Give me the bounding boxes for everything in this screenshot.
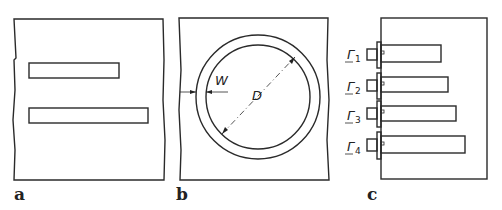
feed-port-3: Γ 3 [345, 101, 456, 127]
port-index-3: 3 [355, 115, 361, 125]
panel-label-b: b [176, 184, 188, 204]
port-index-4: 4 [355, 146, 361, 156]
diagram-canvas: a W D b Γ 1 [0, 0, 502, 210]
slot-long [29, 108, 148, 123]
plate-outline [13, 19, 165, 180]
feed-port-1: Γ 1 [345, 42, 441, 68]
panel-a: a [13, 19, 165, 204]
panel-label-a: a [14, 184, 25, 204]
slot-2 [381, 77, 448, 92]
panel-c: Γ 1 Γ 2 Γ 3 Γ 4 [345, 18, 487, 204]
feed-port-2: Γ 2 [345, 73, 448, 99]
slot-3 [381, 106, 456, 121]
w-arrow-left [190, 90, 196, 94]
port-index-2: 2 [355, 86, 361, 96]
d-arrow-lower [222, 127, 228, 134]
slot-4 [381, 136, 465, 153]
feed-port-4: Γ 4 [345, 132, 465, 159]
dim-label-d: D [252, 88, 262, 103]
slot-1 [381, 45, 441, 62]
port-index-1: 1 [355, 54, 361, 64]
panel-b: W D b [176, 18, 329, 204]
panel-label-c: c [367, 184, 377, 204]
dim-label-w: W [215, 73, 229, 88]
slot-short [29, 63, 119, 78]
plate-outline [381, 18, 487, 179]
